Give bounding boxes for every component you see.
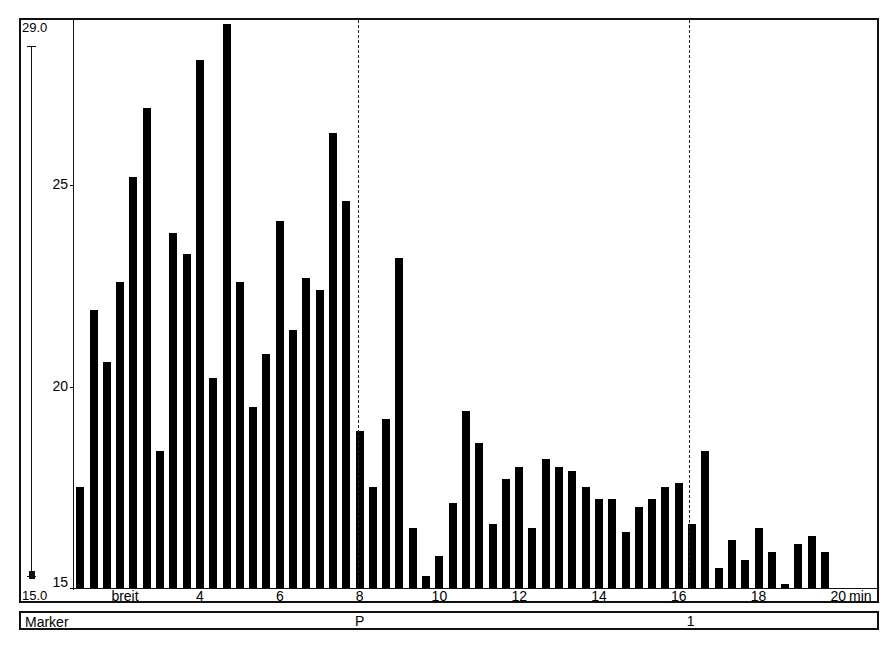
x-tick-label: 8: [356, 588, 364, 604]
y-scale-slider-track[interactable]: [31, 46, 32, 576]
bar: [568, 471, 576, 588]
bar: [196, 60, 204, 588]
bar: [635, 507, 643, 588]
bar: [143, 108, 151, 588]
bar: [489, 524, 497, 588]
bar: [329, 133, 337, 588]
x-tick-label: 14: [591, 588, 607, 604]
y-tick-label: 20: [38, 378, 68, 394]
bar: [595, 499, 603, 588]
bar: [528, 528, 536, 588]
bar: [728, 540, 736, 588]
x-tick-label: 20: [830, 588, 846, 604]
bar: [116, 282, 124, 588]
x-axis-unit: min: [849, 588, 872, 604]
reference-line-1: [689, 20, 690, 588]
y-scale-slider-handle[interactable]: [29, 571, 35, 579]
bar: [449, 503, 457, 588]
bar: [409, 528, 417, 588]
bar: [183, 254, 191, 588]
bar: [515, 467, 523, 588]
bar: [781, 584, 789, 588]
bar: [582, 487, 590, 588]
x-tick-label: 4: [196, 588, 204, 604]
bar: [342, 201, 350, 588]
y-tick: [70, 588, 74, 589]
bar: [608, 499, 616, 588]
bar: [741, 560, 749, 588]
bar: [103, 362, 111, 588]
bar: [542, 459, 550, 588]
bar: [808, 536, 816, 588]
y-tick: [70, 387, 74, 388]
bar: [156, 451, 164, 588]
bar: [768, 552, 776, 588]
bar: [395, 258, 403, 588]
bar: [648, 499, 656, 588]
marker-bar-label: Marker: [25, 614, 69, 630]
y-tick-label: 15: [38, 574, 68, 590]
bar: [821, 552, 829, 588]
reference-line-P: [358, 20, 359, 588]
bar: [302, 278, 310, 588]
y-scale-max-label: 29.0: [22, 20, 47, 35]
bar: [622, 532, 630, 588]
bar: [555, 467, 563, 588]
x-tick-label: 16: [671, 588, 687, 604]
x-tick-label: 18: [751, 588, 767, 604]
y-scale-top-cap: [27, 46, 36, 47]
bar: [661, 487, 669, 588]
bar: [90, 310, 98, 588]
y-axis-line: [73, 18, 74, 590]
marker-1[interactable]: 1: [687, 613, 695, 629]
bar: [236, 282, 244, 588]
bar: [701, 451, 709, 588]
bar: [262, 354, 270, 588]
marker-bar: Marker P1: [19, 611, 879, 630]
bar: [435, 556, 443, 588]
x-annotation-breit: breit: [111, 588, 138, 604]
bar: [129, 177, 137, 588]
bar: [369, 487, 377, 588]
bar: [675, 483, 683, 588]
bar: [289, 330, 297, 588]
bar: [502, 479, 510, 588]
x-tick-label: 6: [276, 588, 284, 604]
bar: [316, 290, 324, 588]
bar: [276, 221, 284, 588]
bar: [249, 407, 257, 588]
y-tick-label: 25: [38, 176, 68, 192]
y-scale-min-label: 15.0: [22, 588, 47, 603]
bar: [794, 544, 802, 588]
x-tick-label: 10: [432, 588, 448, 604]
bar: [76, 487, 84, 588]
marker-P[interactable]: P: [355, 613, 364, 629]
bar: [715, 568, 723, 588]
x-tick-label: 12: [511, 588, 527, 604]
bar: [755, 528, 763, 588]
y-tick: [70, 185, 74, 186]
bar: [223, 24, 231, 588]
bar: [382, 419, 390, 588]
bar: [462, 411, 470, 588]
bar: [209, 378, 217, 588]
bar: [422, 576, 430, 588]
bar: [169, 233, 177, 588]
bar: [475, 443, 483, 588]
